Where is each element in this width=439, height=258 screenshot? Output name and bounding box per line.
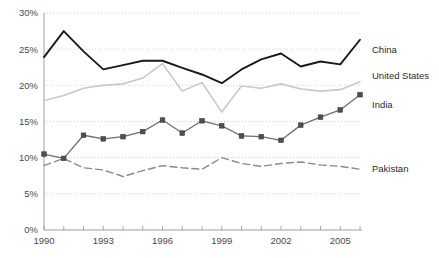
y-tick-label-30%: 30% — [19, 7, 39, 18]
series-labels: ChinaUnited StatesIndiaPakistan — [372, 44, 429, 174]
x-tick-label-1999: 1999 — [211, 235, 232, 246]
x-tick-label-1990: 1990 — [33, 235, 54, 246]
data-point-india-2005 — [338, 108, 343, 113]
series-line-united-states — [44, 64, 360, 112]
data-point-india-1994 — [121, 134, 126, 139]
data-point-india-1995 — [140, 129, 145, 134]
x-tick-label-2002: 2002 — [270, 235, 291, 246]
data-point-india-1999 — [219, 124, 224, 129]
data-point-india-2001 — [259, 134, 264, 139]
chart-container: 0%5%10%15%20%25%30% 19901993199619992002… — [0, 0, 439, 258]
series-line-pakistan — [44, 158, 360, 177]
x-tick-label-2005: 2005 — [330, 235, 351, 246]
y-tick-label-5%: 5% — [24, 188, 38, 199]
data-point-india-2004 — [318, 115, 323, 120]
series-label-india: India — [372, 99, 393, 110]
y-tick-label-25%: 25% — [19, 44, 39, 55]
series-label-united-states: United States — [372, 70, 429, 81]
series-label-china: China — [372, 44, 398, 55]
data-point-india-1991 — [61, 156, 66, 161]
y-tick-label-10%: 10% — [19, 152, 39, 163]
data-point-india-2006 — [358, 92, 363, 97]
series-line-india — [44, 95, 360, 159]
data-point-india-2000 — [239, 134, 244, 139]
line-chart: 0%5%10%15%20%25%30% 19901993199619992002… — [0, 0, 439, 258]
series-markers — [42, 92, 363, 160]
y-tick-label-15%: 15% — [19, 116, 39, 127]
y-tick-label-0%: 0% — [24, 224, 38, 235]
series-line-china — [44, 31, 360, 83]
y-tick-label-20%: 20% — [19, 80, 39, 91]
data-point-india-1998 — [200, 118, 205, 123]
x-tick-label-1993: 1993 — [93, 235, 114, 246]
data-point-india-1996 — [160, 118, 165, 123]
series-label-pakistan: Pakistan — [372, 163, 408, 174]
data-point-india-1990 — [42, 152, 47, 157]
data-point-india-2002 — [279, 138, 284, 143]
data-point-india-1993 — [101, 137, 106, 142]
data-point-india-2003 — [298, 123, 303, 128]
data-point-india-1992 — [81, 133, 86, 138]
x-axis-ticks — [44, 226, 360, 230]
x-tick-label-1996: 1996 — [152, 235, 173, 246]
data-point-india-1997 — [180, 131, 185, 136]
x-axis-tick-labels: 199019931996199920022005 — [33, 235, 350, 246]
gridlines — [44, 13, 362, 194]
y-axis-tick-labels: 0%5%10%15%20%25%30% — [19, 7, 39, 235]
series-lines — [44, 31, 360, 176]
